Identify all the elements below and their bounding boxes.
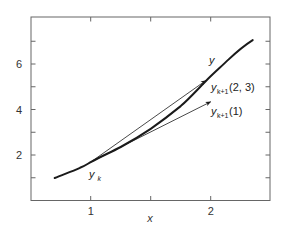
y-axis-ticks-right [266, 41, 271, 178]
x-axis-ticks-top [91, 17, 211, 22]
yk1-1-label: yk+1(1) [210, 105, 242, 119]
yk1-23-label: yk+1(2, 3) [210, 81, 255, 95]
curve-y-label-text: y [208, 54, 216, 66]
yk1-1-label-sub: k+1 [217, 112, 229, 119]
y-tick-label-6: 6 [16, 58, 22, 70]
yk-label-base: y [88, 168, 96, 180]
y-axis-ticks-left [31, 41, 36, 178]
curve-y [55, 40, 253, 178]
x-tick-label-1: 1 [88, 205, 94, 217]
yk1-23-label-sub: k+1 [217, 88, 229, 95]
yk-label: yk [88, 168, 102, 182]
arrow-yk1-23 [91, 81, 206, 163]
x-axis-label: x [146, 212, 153, 224]
y-tick-label-4: 4 [16, 104, 22, 116]
yk1-1-label-args: (1) [229, 105, 242, 117]
yk1-23-label-args: (2, 3) [229, 81, 255, 93]
yk-label-sub: k [98, 175, 102, 182]
chart: 1 2 2 4 6 x y yk yk+1(2, 3) yk+1(1) [0, 0, 285, 231]
y-tick-label-2: 2 [16, 149, 22, 161]
x-axis-ticks-bottom [91, 196, 211, 201]
curve-y-label: y [208, 54, 216, 66]
x-tick-label-2: 2 [208, 205, 214, 217]
